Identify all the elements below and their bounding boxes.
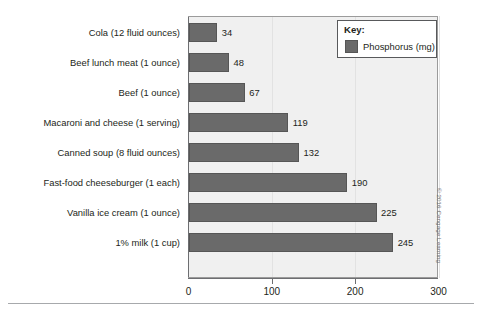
bar-phosphorus xyxy=(189,113,288,132)
category-label: 1% milk (1 cup) xyxy=(0,228,180,258)
bar-phosphorus xyxy=(189,203,377,222)
category-label: Beef lunch meat (1 ounce) xyxy=(0,48,180,78)
category-label: Cola (12 fluid ounces) xyxy=(0,18,180,48)
bar-phosphorus xyxy=(189,23,217,42)
bar-phosphorus xyxy=(189,143,299,162)
bar-value-label: 245 xyxy=(398,228,414,258)
category-label: Fast-food cheeseburger (1 each) xyxy=(0,168,180,198)
bar-value-label: 119 xyxy=(293,108,308,138)
category-label: Beef (1 ounce) xyxy=(0,78,180,108)
bar-value-label: 190 xyxy=(352,168,368,198)
chart-row: 1% milk (1 cup)245 xyxy=(0,228,482,258)
tick-label-200: 200 xyxy=(347,286,364,297)
legend-title: Key: xyxy=(344,24,365,35)
bottom-divider xyxy=(8,303,474,304)
bar-value-label: 67 xyxy=(249,78,259,108)
phosphorus-bar-chart-figure: Cola (12 fluid ounces)34Beef lunch meat … xyxy=(0,0,482,318)
chart-row: Vanilla ice cream (1 ounce)225 xyxy=(0,198,482,228)
copyright-credit: © 2016 Cengage Learning xyxy=(436,188,443,263)
tick-mark-200 xyxy=(355,278,356,284)
bar-phosphorus xyxy=(189,173,347,192)
bar-phosphorus xyxy=(189,53,229,72)
chart-row: Macaroni and cheese (1 serving)119 xyxy=(0,108,482,138)
chart-row: Fast-food cheeseburger (1 each)190 xyxy=(0,168,482,198)
category-label: Canned soup (8 fluid ounces) xyxy=(0,138,180,168)
bar-value-label: 48 xyxy=(234,48,244,78)
tick-label-300: 300 xyxy=(430,286,447,297)
chart-row: Beef (1 ounce)67 xyxy=(0,78,482,108)
bar-value-label: 34 xyxy=(222,18,232,48)
tick-label-100: 100 xyxy=(263,286,280,297)
legend-key-box: Key: Phosphorus (mg) xyxy=(337,20,437,58)
tick-mark-100 xyxy=(272,278,273,284)
bar-value-label: 225 xyxy=(381,198,397,228)
legend-swatch-phosphorus xyxy=(345,40,358,53)
x-axis-line xyxy=(188,278,438,279)
category-label: Macaroni and cheese (1 serving) xyxy=(0,108,180,138)
bar-phosphorus xyxy=(189,233,393,252)
bar-value-label: 132 xyxy=(304,138,320,168)
category-label: Vanilla ice cream (1 ounce) xyxy=(0,198,180,228)
tick-label-0: 0 xyxy=(186,286,192,297)
legend-label-phosphorus: Phosphorus (mg) xyxy=(363,40,435,53)
bar-phosphorus xyxy=(189,83,245,102)
chart-row: Canned soup (8 fluid ounces)132 xyxy=(0,138,482,168)
